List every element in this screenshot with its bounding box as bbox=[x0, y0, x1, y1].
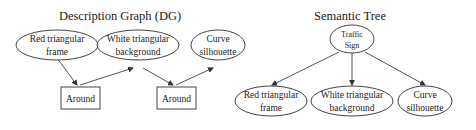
dg-node-curve-silhouette: Curve silhouette bbox=[191, 30, 245, 60]
dg-box-around-2: Around bbox=[157, 87, 196, 109]
dg-node-label-2: silhouette bbox=[200, 47, 237, 57]
st-node-red-triangular-frame: Red triangular frame bbox=[235, 86, 307, 116]
dg-node-label-1: Red triangular bbox=[30, 34, 85, 44]
st-node-curve-silhouette: Curve silhouette bbox=[398, 86, 452, 116]
diagram-canvas: Description Graph (DG) Red triangular fr… bbox=[0, 0, 476, 130]
st-node-label-2: background bbox=[330, 103, 375, 113]
st-node-label-1: White triangular bbox=[321, 90, 384, 100]
dg-node-label-2: background bbox=[116, 47, 161, 57]
dg-node-label-1: White triangular bbox=[107, 34, 170, 44]
semantic-tree: Semantic Tree Traffic Sign Red triangula… bbox=[235, 9, 452, 116]
dg-node-white-triangular-background: White triangular background bbox=[97, 30, 179, 60]
st-node-label-1: Red triangular bbox=[244, 90, 299, 100]
dg-box-around-1: Around bbox=[61, 87, 100, 109]
st-edge-root-red bbox=[272, 52, 339, 85]
dg-edge-around2-curve bbox=[176, 68, 213, 85]
dg-node-label-1: Curve bbox=[206, 34, 229, 44]
dg-edge-white-around2 bbox=[143, 68, 173, 85]
st-node-label-2: silhouette bbox=[407, 103, 444, 113]
dg-box-label: Around bbox=[66, 94, 95, 104]
dg-node-label-2: frame bbox=[46, 47, 68, 57]
st-node-white-triangular-background: White triangular background bbox=[311, 86, 393, 116]
dg-edge-around1-white bbox=[80, 68, 133, 85]
dg-box-label: Around bbox=[162, 94, 191, 104]
st-node-traffic-sign: Traffic Sign bbox=[330, 25, 374, 53]
dg-node-red-triangular-frame: Red triangular frame bbox=[16, 30, 98, 60]
dg-edge-red-around1 bbox=[57, 58, 77, 85]
dg-title: Description Graph (DG) bbox=[59, 9, 181, 23]
description-graph: Description Graph (DG) Red triangular fr… bbox=[16, 9, 245, 109]
st-edge-root-curve bbox=[365, 52, 425, 85]
st-root-label-2: Sign bbox=[345, 41, 360, 50]
st-node-label-2: frame bbox=[260, 103, 282, 113]
st-root-label-1: Traffic bbox=[341, 30, 363, 39]
st-node-label-1: Curve bbox=[413, 90, 436, 100]
st-title: Semantic Tree bbox=[314, 9, 386, 23]
